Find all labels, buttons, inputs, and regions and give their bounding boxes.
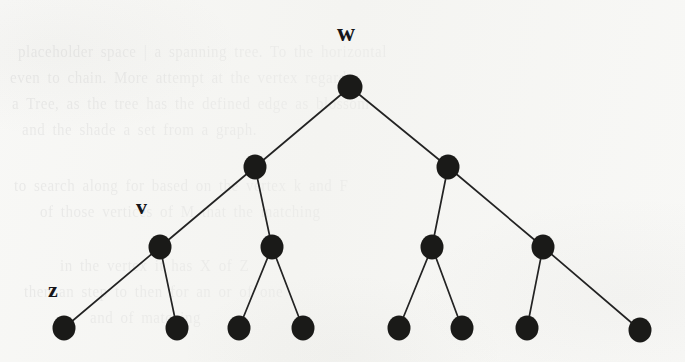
tree-leaf-node [451,316,474,341]
tree-internal-node [532,235,555,260]
tree-internal-node [421,235,444,260]
tree-edge [239,247,272,328]
node-label-w: w [337,20,355,45]
tree-internal-node [149,235,172,260]
tree-edge-group [64,87,640,330]
tree-internal-node [244,155,267,180]
tree-edge [64,247,160,328]
tree-leaf-node [388,316,411,341]
tree-edge [350,87,448,167]
tree-leaf-node [629,318,652,343]
tree-root-node [338,75,363,100]
tree-edge [448,167,543,247]
tree-leaf-node [292,316,315,341]
tree-internal-node [261,235,284,260]
tree-edge [543,247,640,330]
tree-leaf-node [53,316,76,341]
tree-edge [432,247,462,328]
tree-leaf-node [516,316,539,341]
node-label-z: z [48,279,58,301]
tree-edge [272,247,303,328]
tree-internal-node [437,155,460,180]
tree-edge [255,87,350,167]
tree-edge [160,167,255,247]
node-label-v: v [136,196,147,218]
binary-tree-graphic [0,0,685,362]
tree-edge [399,247,432,328]
tree-leaf-node [166,316,189,341]
tree-leaf-node [228,316,251,341]
figure-canvas: placeholder space | a spanning tree. To … [0,0,685,362]
